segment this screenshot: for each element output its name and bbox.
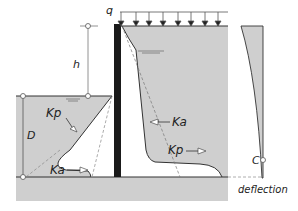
sheet-pile-wall bbox=[114, 24, 121, 177]
label-q: q bbox=[106, 4, 113, 17]
dimension-h-top-marker bbox=[86, 24, 91, 29]
rotation-point-marker bbox=[261, 158, 266, 163]
dimension-h-bottom-marker bbox=[86, 94, 91, 99]
label-kp-left: Kp bbox=[46, 106, 62, 120]
label-c: C bbox=[252, 154, 260, 167]
label-ka-right: Ka bbox=[172, 115, 187, 129]
surcharge-arrows bbox=[118, 12, 221, 26]
label-h: h bbox=[73, 58, 80, 71]
label-ka-left: Ka bbox=[50, 163, 65, 177]
label-kp-right: Kp bbox=[168, 143, 184, 157]
label-d: D bbox=[27, 129, 35, 142]
base-soil bbox=[16, 177, 228, 201]
label-deflection: deflection bbox=[238, 184, 288, 195]
sheet-pile-diagram: h D q Kp Ka Ka Kp C deflection bbox=[0, 0, 298, 211]
diagram-svg: h D q Kp Ka Ka Kp C deflection bbox=[0, 0, 298, 211]
